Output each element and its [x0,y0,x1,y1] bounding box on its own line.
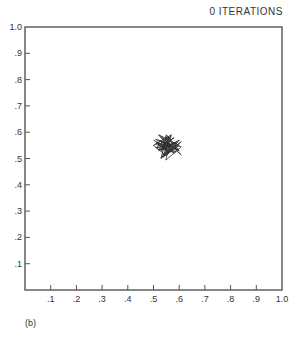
y-tick-label: .3 [14,206,22,216]
x-tick-label: .2 [73,294,81,304]
plot-frame [25,27,282,290]
x-tick-label: 1.0 [276,294,289,304]
x-tick-label: .4 [124,294,132,304]
x-tick-label: .6 [175,294,183,304]
y-tick-label: 1.0 [9,22,22,32]
y-axis: .1.2.3.4.5.6.7.8.91.0 [9,22,30,269]
x-tick-label: .7 [201,294,209,304]
y-tick-label: .5 [14,154,22,164]
x-tick-label: .1 [47,294,55,304]
y-tick-label: .6 [14,127,22,137]
y-tick-label: .9 [14,48,22,58]
y-tick-label: .4 [14,180,22,190]
x-tick-label: .5 [150,294,158,304]
y-tick-label: .8 [14,75,22,85]
figure-caption: (b) [25,318,36,328]
y-tick-label: .7 [14,101,22,111]
y-tick-label: .1 [14,259,22,269]
x-tick-label: .8 [227,294,235,304]
x-tick-label: .9 [253,294,261,304]
data-series [154,135,182,160]
x-tick-label: .3 [98,294,106,304]
data-line [156,136,182,160]
y-tick-label: .2 [14,232,22,242]
x-axis: .1.2.3.4.5.6.7.8.91.0 [47,285,288,304]
plot-area: .1.2.3.4.5.6.7.8.91.0 .1.2.3.4.5.6.7.8.9… [0,0,294,347]
